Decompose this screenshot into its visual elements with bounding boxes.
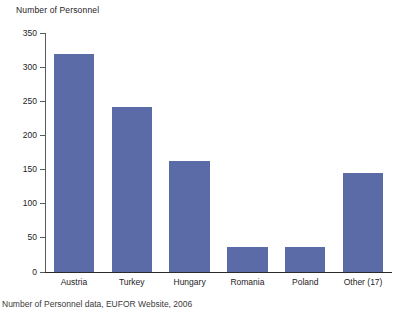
- y-axis-tick-label: 200: [23, 130, 37, 140]
- chart-title: Number of Personnel: [16, 5, 99, 15]
- source-caption-container: Number of Personnel data, EUFOR Website,…: [0, 300, 399, 309]
- y-axis-tick-label: 0: [32, 267, 37, 277]
- personnel-bar-chart: Number of Personnel 05010015020025030035…: [0, 0, 399, 309]
- source-caption: Number of Personnel data, EUFOR Website,…: [2, 300, 192, 309]
- y-axis-tick-label: 100: [23, 198, 37, 208]
- x-axis-category-labels: AustriaTurkeyHungaryRomaniaPolandOther (…: [45, 276, 392, 290]
- plot-area: [45, 33, 392, 272]
- bar: [112, 107, 152, 272]
- y-axis-tick-label: 350: [23, 28, 37, 38]
- bar: [54, 54, 94, 273]
- x-axis-category-label: Austria: [45, 276, 103, 288]
- x-axis-category-label: Other (17): [334, 276, 392, 288]
- bar: [227, 247, 267, 272]
- y-axis-tick-label: 300: [23, 62, 37, 72]
- x-axis-category-label: Romania: [219, 276, 277, 288]
- bar: [169, 161, 209, 272]
- y-axis-tick-label: 150: [23, 164, 37, 174]
- x-axis-category-label: Turkey: [103, 276, 161, 288]
- bar: [285, 247, 325, 272]
- y-axis-tick-label: 50: [28, 232, 37, 242]
- x-axis-category-label: Poland: [276, 276, 334, 288]
- bar: [343, 173, 383, 272]
- y-axis-tick-label: 250: [23, 96, 37, 106]
- x-axis-category-label: Hungary: [161, 276, 219, 288]
